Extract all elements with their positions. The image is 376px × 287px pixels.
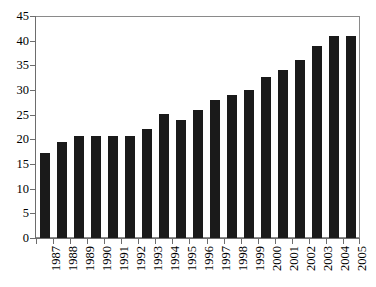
x-axis-tick-label: 1999 bbox=[254, 246, 267, 271]
x-axis-tick-labels: 1987198819891990199119921993199419951996… bbox=[0, 0, 376, 287]
x-axis-tick-label: 1991 bbox=[118, 246, 131, 271]
x-axis-tick-label: 1998 bbox=[237, 246, 250, 271]
bar-chart: 051015202530354045 198719881989199019911… bbox=[0, 0, 376, 287]
x-axis-tick-label: 2005 bbox=[356, 246, 369, 271]
x-axis-tick-label: 2002 bbox=[305, 246, 318, 271]
x-axis-tick-label: 1990 bbox=[101, 246, 114, 271]
x-axis-tick-label: 2000 bbox=[271, 246, 284, 271]
x-axis-tick-label: 1995 bbox=[186, 246, 199, 271]
x-axis-tick-label: 2004 bbox=[339, 246, 352, 271]
x-axis-tick-label: 1997 bbox=[220, 246, 233, 271]
x-axis-tick-label: 1993 bbox=[152, 246, 165, 271]
x-axis-tick-label: 1989 bbox=[84, 246, 97, 271]
x-axis-tick-label: 1987 bbox=[50, 246, 63, 271]
x-axis-tick-label: 1988 bbox=[67, 246, 80, 271]
x-axis-tick-label: 2001 bbox=[288, 246, 301, 271]
x-axis-tick-label: 1994 bbox=[169, 246, 182, 271]
x-axis-tick-label: 2003 bbox=[322, 246, 335, 271]
x-axis-tick-label: 1996 bbox=[203, 246, 216, 271]
x-axis-tick-label: 1992 bbox=[135, 246, 148, 271]
